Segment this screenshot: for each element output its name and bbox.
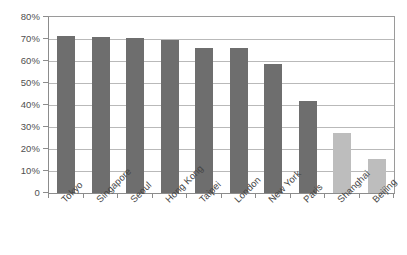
y-axis-tick-label: 20% — [21, 143, 40, 154]
bar — [57, 36, 75, 193]
y-axis-tick-label: 0 — [35, 187, 40, 198]
y-axis-tick-label: 80% — [21, 11, 40, 22]
x-axis-labels: TokyoSingaporeSeoulHong KongTaipeiLondon… — [48, 197, 394, 255]
y-axis-tick-label: 60% — [21, 55, 40, 66]
y-axis-tick-label: 70% — [21, 33, 40, 44]
y-axis-tick-label: 40% — [21, 99, 40, 110]
bar — [299, 101, 317, 193]
plot-area — [48, 16, 395, 194]
y-axis-tick-label: 30% — [21, 121, 40, 132]
y-axis: 010%20%30%40%50%60%70%80% — [0, 0, 48, 193]
bar-chart: 010%20%30%40%50%60%70%80% TokyoSingapore… — [0, 0, 407, 255]
bar — [264, 64, 282, 193]
y-axis-tick-label: 10% — [21, 165, 40, 176]
y-axis-tick-label: 50% — [21, 77, 40, 88]
bars-layer — [49, 17, 394, 193]
bar — [92, 37, 110, 193]
bar — [230, 48, 248, 193]
bar — [161, 40, 179, 193]
